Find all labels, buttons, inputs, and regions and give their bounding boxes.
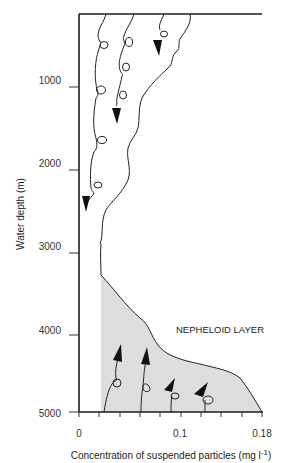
loop-icon [94,182,102,188]
x-axis-ticks [79,412,262,417]
loop-icon [123,63,130,71]
y-tick-1000: 1000 [39,75,62,86]
sinking-path-1 [86,14,106,208]
x-tick-0: 0 [76,428,82,439]
arrow-down-icon [153,40,162,56]
loop-icon [126,38,133,47]
y-tick-4000: 4000 [39,325,62,336]
loop-icon [161,31,168,37]
arrow-down-icon [82,196,90,212]
sinking-path-3 [159,14,164,30]
loop-icon [97,86,106,94]
x-axis-title-close: ) [268,450,271,461]
sinking-path-2 [116,14,134,106]
loop-icon [120,91,127,99]
loop-icon [100,42,108,49]
y-tick-3000: 3000 [39,241,62,252]
x-axis-title-main: Concentration of suspended particles (mg… [71,450,261,461]
x-tick-0-18: 0.18 [252,428,272,439]
y-tick-2000: 2000 [39,158,62,169]
nepheloid-diagram: 1000 2000 3000 4000 5000 0 0.1 0.18 Wate… [0,0,285,463]
y-tick-5000: 5000 [39,408,62,419]
x-tick-0-1: 0.1 [173,428,187,439]
arrow-down-icon [112,108,121,124]
x-axis-title: Concentration of suspended particles (mg… [71,448,272,461]
y-axis-ticks [69,87,79,412]
upper-envelope-line [100,14,190,244]
y-axis-title: Water depth (m) [15,178,26,250]
nepheloid-layer-region [101,275,262,412]
loop-icon [98,137,107,144]
nepheloid-layer-label: NEPHELOID LAYER [176,324,264,335]
